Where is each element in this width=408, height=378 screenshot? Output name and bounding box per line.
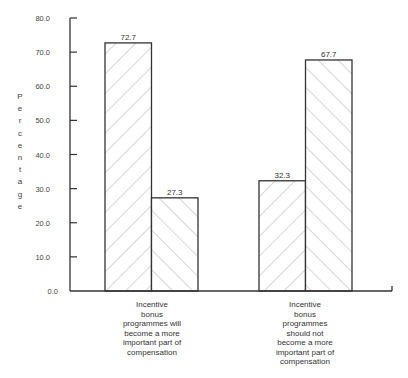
x-category-label: important part of — [276, 348, 335, 357]
bar — [259, 181, 306, 291]
y-axis-label-letter: n — [18, 153, 22, 162]
x-category-label: become a more — [277, 338, 333, 347]
x-category-label: bonus — [141, 310, 163, 319]
y-axis-label-letter: P — [17, 92, 22, 101]
y-tick-label: 30.0 — [35, 185, 50, 194]
y-tick-label: 10.0 — [35, 253, 50, 262]
x-category-label: should not — [287, 329, 325, 338]
bar-chart: 72.732.327.367.70.010.020.030.040.050.06… — [0, 0, 408, 378]
data-label: 72.7 — [120, 33, 136, 42]
x-category-label: programmes — [283, 319, 328, 328]
x-category-label: important part of — [123, 338, 182, 347]
y-tick-label: 80.0 — [35, 14, 50, 23]
y-tick-label: 60.0 — [35, 82, 50, 91]
x-category-label: become a more — [124, 329, 180, 338]
bars-layer — [105, 43, 352, 291]
x-category-label: programmes will — [123, 319, 181, 328]
y-axis-label-letter: g — [18, 190, 22, 199]
y-axis-label-letter: t — [19, 165, 22, 174]
data-label: 32.3 — [274, 171, 290, 180]
y-tick-label: 50.0 — [35, 116, 50, 125]
bar — [152, 198, 199, 291]
y-axis-label-letter: e — [18, 104, 23, 113]
y-axis-label-letter: a — [18, 177, 23, 186]
y-tick-label: 20.0 — [35, 219, 50, 228]
x-category-label: compensation — [127, 348, 177, 357]
data-label: 67.7 — [321, 50, 337, 59]
x-category-label: bonus — [294, 310, 316, 319]
x-category-label: Incentive — [136, 300, 169, 309]
y-tick-label: 0.0 — [48, 287, 58, 296]
y-tick-label: 70.0 — [35, 48, 50, 57]
y-axis-label-letter: e — [18, 202, 23, 211]
y-axis-label-letter: c — [18, 129, 22, 138]
data-label: 27.3 — [167, 188, 183, 197]
x-category-label: Incentive — [289, 300, 322, 309]
bar — [105, 43, 152, 291]
y-axis-label-letter: r — [19, 116, 22, 125]
bar — [306, 60, 353, 291]
y-axis-label-letter: e — [18, 141, 23, 150]
y-tick-label: 40.0 — [35, 151, 50, 160]
x-category-label: compensation — [280, 357, 330, 366]
